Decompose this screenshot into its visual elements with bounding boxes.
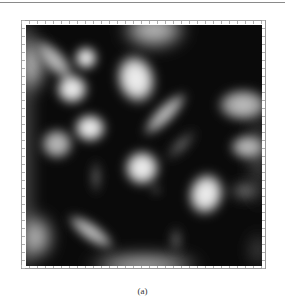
density-plot-image — [26, 25, 262, 266]
frame-ticks-left — [22, 20, 25, 269]
frame-ticks-top — [21, 21, 266, 24]
figure-caption: (a) — [0, 286, 285, 296]
frame-ticks-right — [262, 20, 265, 269]
top-rule — [0, 2, 285, 3]
